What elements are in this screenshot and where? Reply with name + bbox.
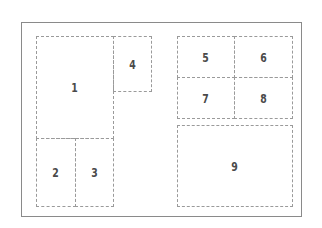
panel-1: 1 [36,36,114,139]
panel-6: 6 [234,36,293,78]
panel-5: 5 [177,36,235,78]
panel-6-label: 6 [260,50,267,65]
panel-9-label: 9 [232,159,239,174]
panel-2: 2 [36,138,76,207]
panel-8: 8 [234,77,293,119]
panel-3-label: 3 [91,165,98,180]
panel-4-label: 4 [129,57,136,72]
panel-3: 3 [75,138,114,207]
panel-1-label: 1 [72,80,79,95]
layout-diagram: 1 2 3 4 5 6 7 8 9 [0,0,322,228]
panel-7-label: 7 [203,91,210,106]
panel-8-label: 8 [260,91,267,106]
panel-5-label: 5 [203,50,210,65]
panel-4: 4 [113,36,152,92]
panel-7: 7 [177,77,235,119]
panel-9: 9 [177,125,293,207]
panel-2-label: 2 [53,165,60,180]
